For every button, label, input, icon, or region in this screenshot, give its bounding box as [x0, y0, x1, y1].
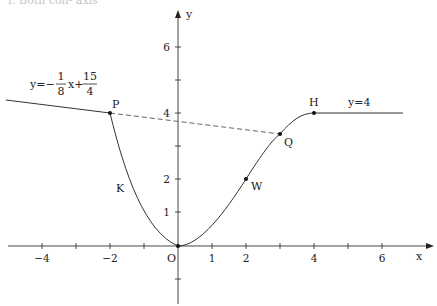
label-w: W — [251, 180, 263, 193]
label-p: P — [112, 98, 120, 111]
x-tick-label: 6 — [379, 252, 386, 264]
x-tick-label: −2 — [102, 252, 117, 264]
svg-text:1: 1 — [58, 70, 65, 83]
diagram-canvas: −4 −2 1 2 4 6 1 2 4 6 x y O P Q H W K y=… — [0, 0, 437, 306]
x-tick-label: 4 — [311, 252, 318, 264]
svg-text:y=−: y=− — [29, 78, 55, 91]
curve-k — [110, 113, 314, 246]
svg-text:x+: x+ — [68, 78, 83, 91]
point-q — [278, 132, 282, 136]
svg-text:8: 8 — [58, 85, 65, 98]
y-tick-label: 2 — [163, 173, 170, 185]
x-axis-arrow-icon — [426, 243, 434, 249]
label-q: Q — [284, 136, 293, 149]
y-axis-arrow-icon — [175, 10, 181, 18]
y-tick-label: 1 — [163, 206, 170, 218]
left-line — [6, 100, 110, 113]
svg-text:15: 15 — [83, 70, 97, 83]
x-axis-label: x — [416, 250, 423, 263]
equation-left: y=− 1 8 x+ 15 4 — [29, 70, 97, 98]
label-h: H — [309, 96, 319, 109]
origin-label: O — [167, 252, 176, 265]
point-p — [108, 111, 112, 115]
x-tick-label: 2 — [243, 252, 250, 264]
point-h — [312, 111, 316, 115]
equation-right: y=4 — [347, 96, 370, 109]
point-w — [244, 177, 248, 181]
y-tick-label: 4 — [163, 107, 170, 119]
x-tick-label: −4 — [34, 252, 50, 264]
x-tick-label: 1 — [209, 252, 216, 264]
label-k: K — [116, 182, 125, 195]
y-tick-label: 6 — [163, 41, 170, 53]
dashed-chord-pq — [110, 113, 280, 134]
point-o — [176, 244, 180, 248]
svg-text:4: 4 — [87, 85, 94, 98]
y-axis-label: y — [185, 8, 193, 21]
axes: −4 −2 1 2 4 6 1 2 4 6 x y O — [8, 8, 434, 304]
